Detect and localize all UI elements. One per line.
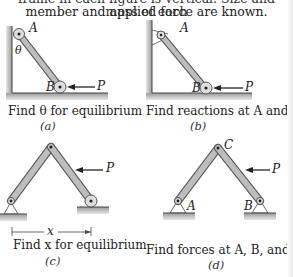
label-c-x: x <box>47 224 54 238</box>
sublabel-a: (a) <box>40 119 56 133</box>
label-d-C: C <box>224 138 233 152</box>
caption-b: Find reactions at A and B <box>146 104 293 118</box>
label-a-theta: θ <box>15 44 22 57</box>
figure-c <box>0 146 109 237</box>
caption-c: Find x for equilibrium <box>13 238 147 252</box>
label-d-A: A <box>187 199 196 213</box>
label-d-B: B <box>244 199 253 213</box>
label-a-B: B <box>46 80 55 94</box>
sublabel-c: (c) <box>45 254 60 268</box>
sublabel-d: (d) <box>208 258 224 272</box>
label-a-A: A <box>29 21 38 35</box>
sublabel-b: (b) <box>190 119 206 133</box>
label-b-A: A <box>180 21 189 35</box>
figure-diagrams <box>0 0 293 277</box>
caption-a: Find θ for equilibrium <box>8 104 142 118</box>
label-b-B: B <box>192 81 201 95</box>
figure-a <box>6 26 108 100</box>
figure-d <box>163 147 276 221</box>
caption-d: Find forces at A, B, and C <box>146 243 293 257</box>
label-b-P: P <box>245 80 253 94</box>
label-d-P: P <box>272 162 280 176</box>
label-a-P: P <box>97 79 105 93</box>
page-edge-shadow <box>287 0 293 277</box>
label-c-P: P <box>106 161 114 175</box>
